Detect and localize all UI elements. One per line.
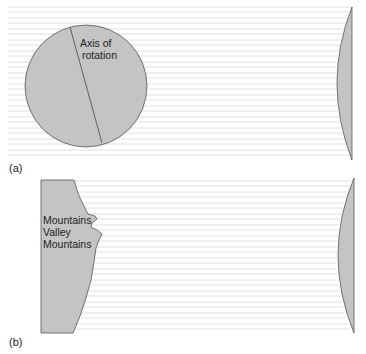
mountains-label-bottom: Mountains	[43, 238, 91, 250]
panel-a-right-shore	[337, 7, 352, 160]
panel-a-label: (a)	[9, 162, 22, 174]
axis-label-line1: Axis of	[80, 37, 112, 49]
mountains-label-top: Mountains	[43, 214, 91, 226]
panel-b-right-shore	[338, 178, 354, 333]
diagram-canvas	[0, 0, 366, 354]
panel-b-label: (b)	[9, 336, 22, 348]
panel-b-wave-lines	[70, 181, 352, 329]
axis-label-line2: rotation	[82, 49, 117, 61]
valley-label: Valley	[43, 226, 71, 238]
